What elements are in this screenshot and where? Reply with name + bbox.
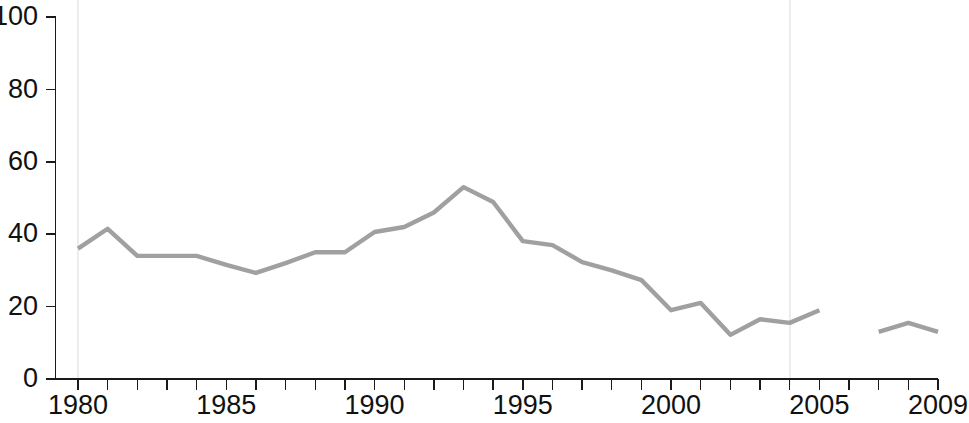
y-axis — [46, 17, 56, 379]
y-tick-label: 60 — [8, 146, 38, 176]
data-series-line — [78, 187, 938, 335]
y-tick-label: 20 — [8, 291, 38, 321]
y-tick-label: 80 — [8, 74, 38, 104]
x-tick-label: 2000 — [641, 390, 701, 420]
data-line-segment — [78, 187, 819, 335]
y-tick-labels: 020406080100 — [0, 1, 38, 393]
y-tick-label: 0 — [23, 363, 38, 393]
x-tick-label: 1985 — [196, 390, 256, 420]
y-tick-label: 40 — [8, 218, 38, 248]
x-tick-label: 2009 — [908, 390, 968, 420]
data-line-segment — [879, 323, 938, 332]
x-tick-labels: 1980198519901995200020052009 — [48, 390, 968, 420]
x-tick-label: 2005 — [789, 390, 849, 420]
x-tick-label: 1990 — [345, 390, 405, 420]
line-chart: 020406080100 198019851990199520002005200… — [0, 0, 969, 423]
chart-container: 020406080100 198019851990199520002005200… — [0, 0, 969, 423]
x-tick-label: 1980 — [48, 390, 108, 420]
vertical-gridlines — [78, 0, 790, 385]
x-axis — [56, 379, 939, 390]
x-tick-label: 1995 — [493, 390, 553, 420]
y-tick-label: 100 — [0, 1, 38, 31]
